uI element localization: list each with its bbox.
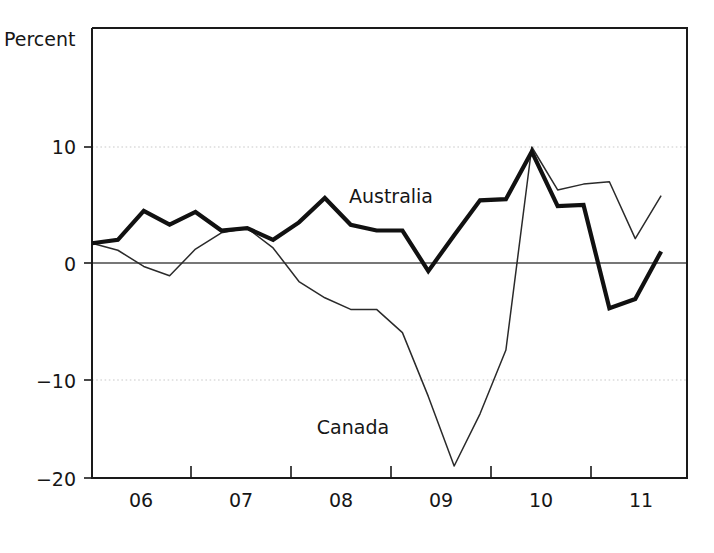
y-tick-label-0: 0 <box>64 253 76 275</box>
percent-line-chart: Percent 10 0 <box>0 0 714 553</box>
series-annotation-australia: Australia <box>349 185 433 207</box>
x-tick-label-06: 06 <box>129 489 153 511</box>
chart-background <box>0 0 714 553</box>
chart-container: Percent 10 0 <box>0 0 714 553</box>
x-tick-label-07: 07 <box>229 489 253 511</box>
y-tick-label-minus-20: −20 <box>36 468 76 490</box>
x-tick-label-10: 10 <box>529 489 553 511</box>
y-tick-label-minus-10: −10 <box>36 370 76 392</box>
x-tick-label-09: 09 <box>429 489 453 511</box>
y-axis-unit-label: Percent <box>4 28 76 50</box>
series-annotation-canada: Canada <box>317 416 389 438</box>
y-tick-label-10: 10 <box>52 136 76 158</box>
x-tick-label-08: 08 <box>329 489 353 511</box>
x-tick-label-11: 11 <box>629 489 653 511</box>
